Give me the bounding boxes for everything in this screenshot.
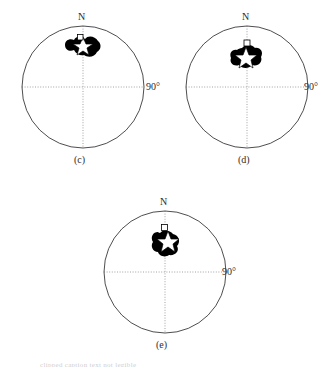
- stereonet-plot-e: [0, 0, 329, 369]
- north-label-e: N: [160, 197, 167, 207]
- clipped-caption-fragment: clipped caption text not legible: [40, 361, 290, 367]
- stereonet-figure: N 90° (c) N 90° (d): [0, 0, 329, 369]
- reference-square-e: [162, 225, 168, 231]
- east-degree-label-e: 90°: [222, 267, 236, 277]
- panel-label-e: (e): [156, 340, 167, 350]
- density-cluster-e: [152, 230, 179, 256]
